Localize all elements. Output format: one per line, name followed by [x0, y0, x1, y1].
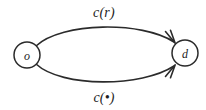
destination-node-label: d: [182, 47, 189, 61]
upper-arc-label: c(r): [93, 5, 115, 21]
lower-arc-label: c(•): [93, 90, 114, 106]
upper-arc-path: [36, 27, 174, 46]
edge-lower-arc: [36, 64, 175, 82]
node-origin: o: [14, 42, 40, 68]
diagram-canvas: o d c(r) c(•): [0, 0, 206, 110]
origin-node-label: o: [24, 49, 30, 63]
lower-arc-arrowhead-icon: [166, 65, 176, 78]
node-destination: d: [172, 40, 198, 66]
graph-svg: o d c(r) c(•): [0, 0, 206, 110]
upper-arc-arrowhead-icon: [166, 30, 176, 43]
edge-upper-arc: [36, 27, 175, 46]
lower-arc-path: [36, 64, 174, 82]
